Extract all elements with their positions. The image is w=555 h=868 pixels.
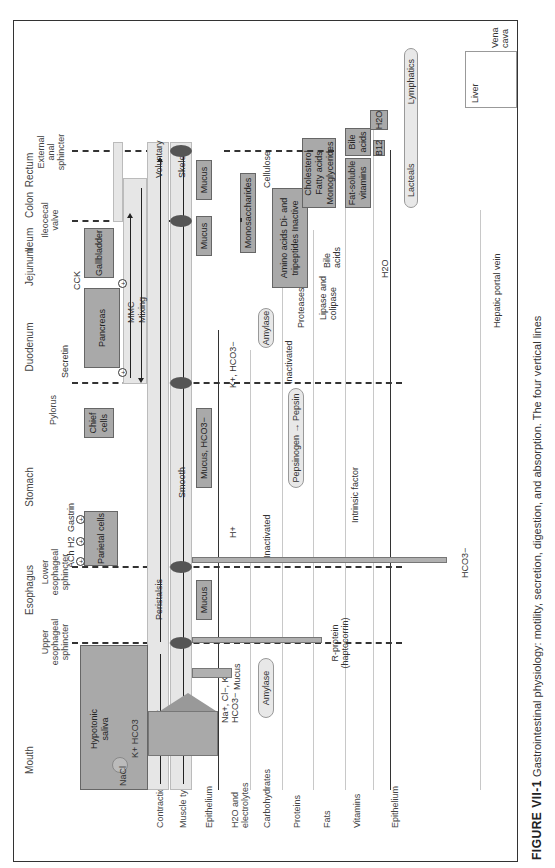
plus-icon-gastrin: + [76, 515, 85, 524]
row-sep-2 [282, 270, 283, 790]
region-mouth: Mouth [24, 746, 35, 774]
colon-boundary-1 [240, 218, 242, 222]
row-label-epithelium-2: Epithelium [390, 786, 400, 828]
region-esophagus: Esophagus [24, 565, 35, 615]
mucus-colon: Mucus [196, 160, 212, 200]
saliva-mucus-duct [192, 668, 232, 678]
contraction-peristalsis: Peristalsis [154, 579, 164, 620]
region-rectum: Rectum [24, 153, 35, 187]
figure-label: FIGURE VII-1 [530, 780, 544, 860]
pepsinogen-pepsin-pill: Pepsinogen → Pepsin [288, 388, 304, 488]
row-label-vitamins: Vitamins [352, 794, 362, 828]
lipase-label: Lipase and colipase [318, 270, 338, 320]
stimulus-ach: ACh [66, 550, 76, 568]
plus-icon-ach: + [76, 557, 85, 566]
region-ileum: Ileum [24, 228, 35, 252]
k-hco3-label: K+ HCO3 [130, 719, 140, 758]
pepsin-label: Pepsin [291, 393, 301, 421]
lipid-products: Cholesterol Fatty acids Monoglycerides [302, 138, 336, 208]
b12: B12 [373, 140, 385, 156]
inactivated-pepsin-label: Inactivated [284, 340, 294, 384]
saliva-duct-tip [160, 693, 216, 711]
label-external-anal-sphincter: External anal sphincter [36, 132, 66, 172]
mmc-arrow [130, 218, 131, 378]
label-upper-esophageal-sphincter: Upper esophageal sphincter [40, 612, 70, 672]
gallbladder: Gallbladder [84, 228, 114, 278]
stimulus-h2: H2 [66, 536, 76, 548]
saliva-mucus-label: Mucus [232, 663, 242, 690]
region-jejunum: Jejunum [24, 248, 35, 286]
muscle-smooth: Smooth [177, 467, 187, 498]
conversion-arrow-icon: → [291, 421, 301, 435]
pancreas: Pancreas [84, 288, 120, 368]
motility-mixing: Mixing [137, 297, 147, 323]
label-ileocecal-valve: Ileocecal valve [40, 200, 60, 240]
colon-boundary-2 [224, 150, 334, 152]
region-colon: Colon [24, 192, 35, 218]
nacl-label: NaCl [118, 766, 128, 786]
lacteals-lymphatics: Lacteals Lymphatics [404, 48, 418, 208]
h-plus-label: H+ [228, 526, 238, 538]
pepsinogen-label: Pepsinogen [291, 435, 301, 483]
mucus-ileum: Mucus [196, 216, 212, 256]
row-sep-1 [250, 350, 251, 790]
cellulose-label: Cellulose [262, 151, 272, 188]
h2o-jejunum-label: H2O [380, 259, 390, 278]
mixing-arrow-tip [138, 378, 144, 383]
region-duodenum: Duodenum [24, 323, 35, 372]
muscle-arrow [183, 152, 184, 784]
intrinsic-factor-label: Intrinsic factor [350, 467, 360, 523]
stimulus-secretin: Secretin [60, 345, 70, 378]
hepatic-portal-label: Hepatic portal vein [492, 253, 502, 328]
row-label-fats: Fats [322, 810, 332, 828]
plus-icon-h2: + [76, 537, 85, 546]
motility-mmc: MMC [126, 302, 136, 324]
stimulus-gastrin: Gastrin [66, 503, 76, 532]
lymphatics-label: Lymphatics [406, 59, 416, 104]
liver-label: Liver [470, 83, 480, 103]
parietal-cells: Parietal cells [84, 511, 118, 566]
row-sep-4 [345, 190, 346, 790]
mucus-stomach: Mucus, HCO3− [196, 408, 212, 488]
row-sep-3 [313, 230, 314, 790]
hco3-absorbed-label: HCO3− [460, 548, 470, 578]
saliva-label: Hypotonic saliva [89, 709, 111, 749]
figure-caption-text: Gastrointestinal physiology: motility, s… [531, 316, 543, 777]
vena-cava-label: Vena cava [490, 18, 510, 48]
row-label-proteins: Proteins [292, 795, 302, 828]
bile-acids-absorbed: Bile acids [345, 128, 371, 156]
epithelium-line-bottom [390, 150, 391, 790]
label-pylorus: Pylorus [48, 385, 58, 435]
gi-physiology-diagram: Mouth Esophagus Stomach Duodenum Jejunum… [0, 0, 555, 868]
region-stomach: Stomach [24, 467, 35, 506]
external-anal-sphincter-line [72, 150, 152, 152]
figure-caption: FIGURE VII-1 Gastrointestinal physiology… [530, 316, 544, 860]
row-label-epithelium: Epithelium [204, 778, 214, 828]
peristalsis-arrow [160, 162, 161, 642]
chief-cells: Chief cells [84, 408, 114, 438]
pylorus-marker [170, 377, 192, 389]
lacteals-label: Lacteals [406, 163, 416, 197]
inactivated-amylase-label: Inactivated [262, 514, 272, 558]
row-label-h2o-electrolytes: H2O and electrolytes [230, 778, 250, 828]
saliva-duct [148, 711, 218, 756]
proteases-label: Proteases [296, 287, 306, 328]
liver: Liver [465, 51, 517, 108]
amylase-saliva: Amylase [258, 658, 274, 718]
mmc-arrow-tip [127, 213, 133, 218]
h2o-absorbed: H2O [370, 110, 388, 130]
plus-icon-secretin: + [118, 368, 127, 377]
bile-acids-secreted-label: Bile acids [322, 238, 342, 268]
row-label-carbohydrates: Carbohydrates [262, 769, 272, 828]
monosaccharides: Monosaccharides [240, 173, 256, 253]
les-marker [170, 561, 192, 573]
r-protein-duct [192, 637, 322, 643]
anal-marker [170, 145, 192, 157]
peristalsis-arrow-tip [157, 157, 163, 162]
r-protein-label: R-protein (haptocorrin) [330, 608, 350, 678]
mucus-esophagus: Mucus [196, 580, 212, 620]
row-sep-5 [373, 130, 374, 790]
mixing-arrow [141, 188, 142, 378]
plus-icon-cck: + [118, 279, 127, 288]
ileum-band [113, 142, 123, 222]
